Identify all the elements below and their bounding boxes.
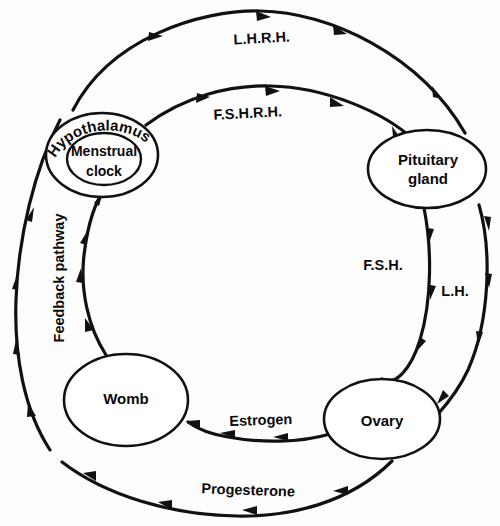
node-label-clock: clock	[86, 163, 122, 179]
node-label-ovary: Ovary	[361, 412, 404, 429]
node-label-pituitary-line2: gland	[408, 170, 448, 187]
arc-fsh-line	[382, 208, 430, 381]
node-ovary[interactable]: Ovary	[324, 379, 440, 459]
arrow-head	[187, 420, 200, 430]
arrow-head	[12, 275, 18, 290]
arc-progesterone: Progesterone	[62, 461, 392, 516]
arc-label-fshrh: F.S.H.R.H.	[213, 103, 282, 123]
arrow-head	[27, 403, 36, 417]
arrow-head	[333, 486, 348, 495]
arc-fshrh: F.S.H.R.H.	[146, 86, 414, 140]
node-label-pituitary-line1: Pituitary	[398, 151, 459, 168]
node-pituitary-gland[interactable]: Pituitary gland	[368, 130, 486, 208]
cycle-diagram-canvas: L.H.R.H. L.H. Progesterone F.S.H.R.H.	[0, 0, 500, 526]
arc-label-progesterone: Progesterone	[201, 480, 295, 499]
node-label-menstrual: Menstrual	[71, 143, 137, 159]
arc-estrogen: Estrogen	[187, 411, 330, 441]
arc-label-feedback: Feedback pathway	[51, 214, 67, 343]
arc-label-lh: L.H.	[441, 283, 468, 299]
arc-fsh: F.S.H.	[363, 208, 436, 381]
arc-label-lhrh: L.H.R.H.	[233, 29, 290, 48]
arrow-head	[432, 86, 442, 99]
arc-label-estrogen: Estrogen	[229, 411, 292, 429]
arrow-head	[430, 285, 436, 300]
arc-label-fsh: F.S.H.	[363, 257, 402, 273]
node-womb[interactable]: Womb	[64, 354, 188, 446]
menstrual-cycle-diagram: L.H.R.H. L.H. Progesterone F.S.H.R.H.	[0, 0, 500, 526]
node-hypothalamus[interactable]: Hypothalamus Menstrual clock	[43, 113, 158, 197]
arrow-head	[242, 506, 257, 515]
arc-feedback-inner	[76, 192, 106, 355]
node-label-womb: Womb	[103, 390, 149, 407]
